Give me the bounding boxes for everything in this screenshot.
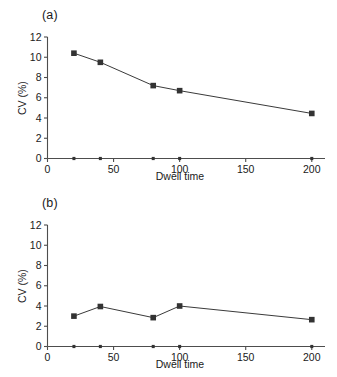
figure-two-panel-line-chart: (a) CV (%) 024681012050100150200 Dwell t… (0, 0, 337, 377)
panel-b-series-line (74, 306, 312, 320)
panel-a-y-tick-label: 10 (30, 51, 42, 63)
panel-b-x-tick-label: 0 (45, 351, 51, 363)
panel-a-x-tick-label: 200 (303, 163, 321, 175)
panel-b-baseline-marker (152, 345, 155, 348)
panel-b-y-tick-label: 10 (30, 239, 42, 251)
panel-b-baseline-marker (72, 345, 75, 348)
panel-a-y-tick-label: 12 (30, 31, 42, 43)
panel-a-y-tick-label: 8 (36, 71, 42, 83)
panel-b-y-tick-label: 6 (36, 279, 42, 291)
panel-b-baseline-marker (310, 345, 313, 348)
chart-panel-b: (b) CV (%) 024681012050100150200 Dwell t… (0, 188, 337, 376)
panel-a-plot-area: 024681012050100150200 (0, 0, 337, 188)
panel-a-y-tick-label: 4 (36, 112, 42, 124)
panel-b-data-point (98, 304, 104, 310)
panel-a-x-axis-label: Dwell time (110, 170, 250, 182)
panel-b-y-tick-label: 4 (36, 300, 42, 312)
panel-b-y-tick-label: 8 (36, 259, 42, 271)
panel-a-baseline-marker (99, 157, 102, 160)
panel-a-y-tick-label: 2 (36, 132, 42, 144)
panel-a-y-tick-label: 6 (36, 91, 42, 103)
panel-a-baseline-marker (310, 157, 313, 160)
panel-a-series-line (74, 53, 312, 113)
chart-panel-a: (a) CV (%) 024681012050100150200 Dwell t… (0, 0, 337, 188)
panel-a-baseline-marker (178, 157, 181, 160)
panel-b-data-point (309, 317, 315, 323)
panel-b-baseline-marker (99, 345, 102, 348)
panel-a-data-point (309, 111, 315, 117)
panel-b-data-point (71, 313, 77, 319)
panel-a-y-tick-label: 0 (36, 152, 42, 164)
panel-a-data-point (71, 50, 77, 56)
panel-a-data-point (98, 60, 104, 66)
panel-b-x-axis-label: Dwell time (110, 358, 250, 370)
panel-a-data-point (177, 88, 183, 94)
panel-a-data-point (150, 83, 156, 89)
panel-a-baseline-marker (72, 157, 75, 160)
panel-b-y-tick-label: 2 (36, 320, 42, 332)
panel-b-y-tick-label: 0 (36, 340, 42, 352)
panel-a-x-tick-label: 0 (45, 163, 51, 175)
panel-b-baseline-marker (178, 345, 181, 348)
panel-b-data-point (177, 303, 183, 309)
panel-b-y-tick-label: 12 (30, 219, 42, 231)
panel-a-baseline-marker (152, 157, 155, 160)
panel-b-plot-area: 024681012050100150200 (0, 188, 337, 376)
panel-b-x-tick-label: 200 (303, 351, 321, 363)
panel-b-data-point (150, 315, 156, 321)
